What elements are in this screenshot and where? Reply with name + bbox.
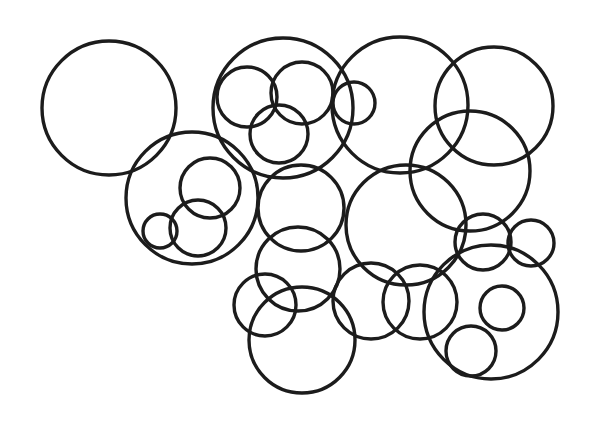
circle-outline bbox=[42, 41, 176, 175]
circle-outline bbox=[446, 326, 496, 376]
circle-outline bbox=[480, 286, 524, 330]
circle-outline bbox=[234, 274, 296, 336]
circle-outline bbox=[424, 245, 558, 379]
circles-drawing bbox=[0, 0, 600, 431]
circle-outline bbox=[143, 214, 177, 248]
circle-outline bbox=[217, 67, 277, 127]
circle-outline bbox=[180, 158, 240, 218]
circles-figure bbox=[0, 0, 600, 431]
circle-outline bbox=[249, 287, 355, 393]
circle-outline bbox=[383, 265, 457, 339]
circle-outline bbox=[435, 47, 553, 165]
